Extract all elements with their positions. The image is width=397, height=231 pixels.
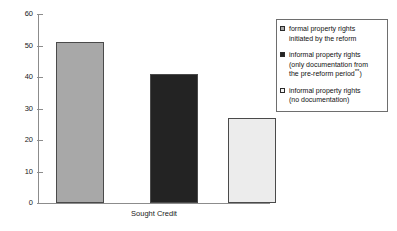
legend-swatch-gray-square [280,26,285,31]
legend-label-line1: informal property rights [289,86,384,96]
bar-formal-property-rights [56,42,104,203]
y-tick-label-0: 0 [29,199,33,207]
y-tick-label-40: 40 [25,73,33,81]
bar-informal-property-rights-undocumented [228,118,276,203]
legend-label-line2: initiated by the reform [289,34,384,44]
chart-legend: formal property rights initiated by the … [276,19,388,112]
legend-swatch-black-square [280,52,285,57]
legend-item-informal-undocumented: informal property rights (no documentati… [280,86,384,105]
x-axis-line [38,203,270,204]
legend-label-line3: the pre-reform period**) [289,69,384,79]
plot-area: 60 50 40 30 20 10 0 Sought Cred [38,14,270,204]
legend-label-line2: (only documentation from [289,60,384,70]
legend-label-line3-suffix: ) [359,70,361,77]
legend-label-line2: (no documentation) [289,95,384,105]
y-tick-label-20: 20 [25,136,33,144]
legend-item-informal-documented: informal property rights (only documenta… [280,50,384,79]
y-tick-label-50: 50 [25,42,33,50]
y-tick-label-30: 30 [25,105,33,113]
bar-chart: 60 50 40 30 20 10 0 Sought Cred [0,0,397,231]
x-axis-label: Sought Credit [38,210,270,218]
legend-label-line1: formal property rights [289,24,384,34]
bar-informal-property-rights-documented [150,74,198,203]
y-tick-label-10: 10 [25,168,33,176]
legend-swatch-white-square [280,88,285,93]
legend-label-line3-text: the pre-reform period [289,70,355,77]
legend-label-line1: informal property rights [289,50,384,60]
legend-item-formal: formal property rights initiated by the … [280,24,384,43]
y-tick-label-60: 60 [25,10,33,18]
